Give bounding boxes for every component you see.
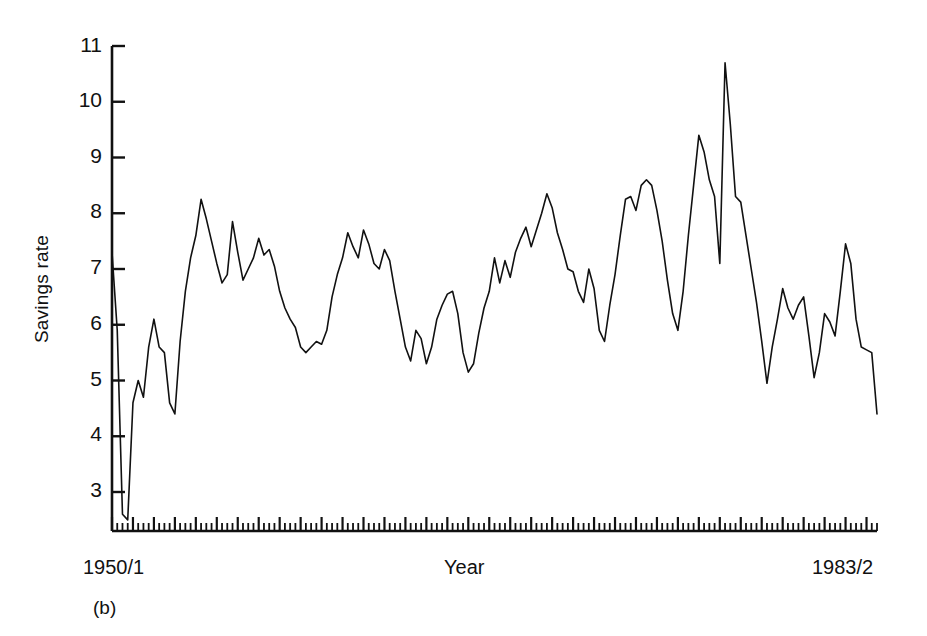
figure-panel: Savings rate 11 10 9 8 7 6 5 4 3 1950/1 …: [0, 0, 927, 636]
axis-ticks: [112, 517, 877, 531]
savings-rate-line: [112, 63, 877, 520]
plot-area: [0, 0, 927, 636]
axes-lines: [112, 46, 877, 531]
